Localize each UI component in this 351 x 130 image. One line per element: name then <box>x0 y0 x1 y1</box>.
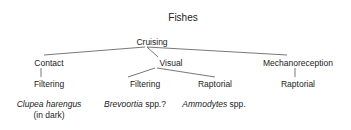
node-contact: Contact <box>34 58 63 68</box>
node-visual-raptorial: Raptorial <box>198 79 232 89</box>
edge-cruising-mechanoreception <box>147 47 287 55</box>
species-suffix: spp.? <box>143 99 166 109</box>
example-clupea-note: (in dark) <box>33 110 64 120</box>
node-mechanoreception: Mechanoreception <box>263 58 333 68</box>
node-visual: Visual <box>160 58 183 68</box>
species-name: Brevoortia <box>104 99 143 109</box>
example-clupea: Clupea harengus <box>17 99 82 109</box>
edge-cruising-contact <box>44 47 145 55</box>
example-brevoortia: Brevoortia spp.? <box>104 99 166 109</box>
edge-visual-filtering <box>128 68 155 77</box>
node-cruising: Cruising <box>136 37 167 47</box>
node-visual-filtering: Filtering <box>130 79 160 89</box>
edge-visual-raptorial <box>157 68 215 77</box>
node-mechanoreception-raptorial: Raptorial <box>281 79 315 89</box>
example-ammodytes: Ammodytes spp. <box>182 99 245 109</box>
species-suffix: spp. <box>227 99 245 109</box>
species-name: Clupea harengus <box>17 99 82 109</box>
species-name: Ammodytes <box>182 99 227 109</box>
edge-cruising-visual <box>147 47 158 57</box>
node-contact-filtering: Filtering <box>34 79 64 89</box>
diagram-title: Fishes <box>168 13 197 23</box>
